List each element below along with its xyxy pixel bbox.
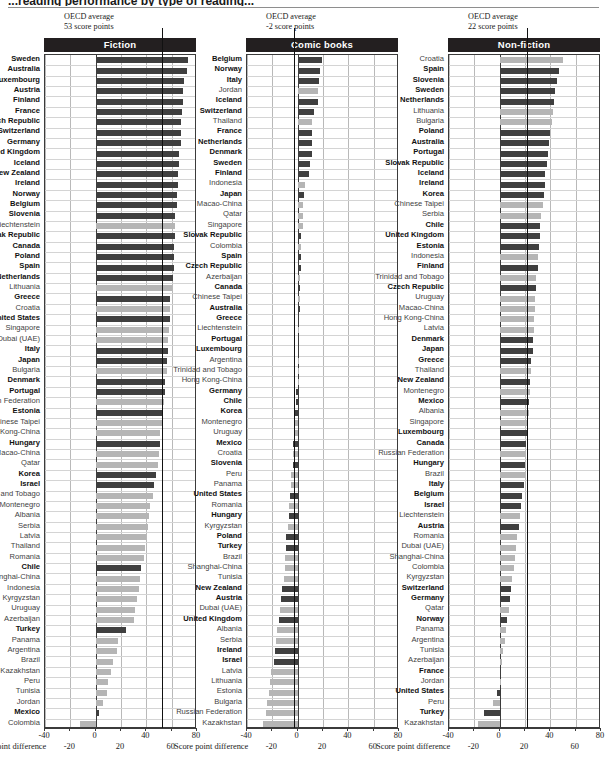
- bar: [500, 327, 534, 333]
- oecd-average-value: 53 score points: [64, 22, 194, 32]
- country-label: Uruguay: [0, 604, 40, 612]
- bar: [497, 690, 500, 696]
- country-label: Indonesia: [52, 179, 242, 187]
- country-label: Argentina: [254, 636, 444, 644]
- bar: [493, 700, 499, 706]
- country-label: Qatar: [0, 459, 40, 467]
- country-label: Poland: [254, 127, 444, 135]
- gridline-horizontal: [449, 138, 599, 139]
- country-label: Romania: [52, 501, 242, 509]
- gridline-horizontal: [449, 408, 599, 409]
- country-label: Russian Federation: [0, 397, 40, 405]
- axis-tick-label: 0: [282, 731, 312, 740]
- country-label: Chinese Taipei: [52, 293, 242, 301]
- bar: [500, 586, 511, 592]
- panel-title-comic-books: Comic books: [246, 38, 398, 52]
- country-label-list-fiction: SwedenAustraliaLuxembourgAustriaFinlandF…: [4, 54, 42, 728]
- country-label: Ireland: [0, 179, 40, 187]
- country-label: Hong Kong-China: [52, 376, 242, 384]
- gridline-horizontal: [449, 211, 599, 212]
- bar: [500, 482, 524, 488]
- country-label: Finland: [0, 96, 40, 104]
- country-label: Sweden: [52, 159, 242, 167]
- bar: [500, 296, 535, 302]
- country-label: Chinese Taipei: [0, 418, 40, 426]
- plot-area-non-fiction: [448, 54, 600, 728]
- gridline-horizontal: [449, 418, 599, 419]
- country-label: Belgium: [52, 55, 242, 63]
- country-label: United States: [254, 687, 444, 695]
- country-label: Lithuania: [254, 107, 444, 115]
- gridline-horizontal: [449, 356, 599, 357]
- axis-tick-label: -20: [54, 742, 84, 751]
- country-label: Denmark: [52, 148, 242, 156]
- bar: [500, 265, 538, 271]
- gridline-horizontal: [449, 470, 599, 471]
- bar: [500, 306, 535, 312]
- country-label: Greece: [254, 356, 444, 364]
- country-label: Slovenia: [52, 459, 242, 467]
- country-label: United Kingdom: [52, 615, 242, 623]
- country-label: Greece: [52, 314, 242, 322]
- country-label: Jordan: [254, 677, 444, 685]
- country-label: Panama: [0, 636, 40, 644]
- country-label: Estonia: [52, 687, 242, 695]
- country-label: Hungary: [0, 439, 40, 447]
- country-label: Thailand: [254, 366, 444, 374]
- country-label: Dubai (UAE): [52, 604, 242, 612]
- gridline-horizontal: [449, 231, 599, 232]
- country-label: Chile: [254, 221, 444, 229]
- gridline-horizontal: [449, 542, 599, 543]
- country-label: Israel: [0, 480, 40, 488]
- bar: [500, 182, 546, 188]
- country-label: France: [52, 127, 242, 135]
- country-label: Czech Republic: [0, 117, 40, 125]
- gridline-horizontal: [449, 625, 599, 626]
- bar: [500, 57, 563, 63]
- country-label: Peru: [0, 677, 40, 685]
- country-label: Argentina: [52, 356, 242, 364]
- country-label: Peru: [254, 698, 444, 706]
- gridline-horizontal: [449, 314, 599, 315]
- country-label: Hungary: [254, 459, 444, 467]
- gridline-horizontal: [449, 387, 599, 388]
- bar: [500, 399, 529, 405]
- bar: [500, 244, 539, 250]
- country-label: Hong Kong-China: [254, 314, 444, 322]
- gridline-horizontal: [449, 65, 599, 66]
- country-label: Turkey: [52, 542, 242, 550]
- bar: [500, 576, 513, 582]
- oecd-average-line: [527, 28, 528, 728]
- bar: [500, 389, 530, 395]
- gridline-horizontal: [449, 522, 599, 523]
- axis-tick-label: 40: [130, 731, 160, 740]
- axis-tick: [120, 728, 121, 731]
- country-label: Romania: [254, 532, 444, 540]
- country-label: Poland: [0, 252, 40, 260]
- country-label: Denmark: [0, 376, 40, 384]
- country-label: Macao-China: [0, 449, 40, 457]
- country-label: Montenegro: [254, 387, 444, 395]
- bar: [500, 316, 534, 322]
- bar: [500, 545, 516, 551]
- country-label: Singapore: [0, 324, 40, 332]
- country-label: Israel: [254, 501, 444, 509]
- country-label: Kazakhstan: [52, 719, 242, 727]
- gridline-horizontal: [449, 501, 599, 502]
- country-label: Australia: [0, 65, 40, 73]
- bar: [500, 254, 538, 260]
- country-label: Dubai (UAE): [254, 542, 444, 550]
- bar: [478, 721, 500, 727]
- country-label: Greece: [0, 293, 40, 301]
- country-label: Chile: [52, 397, 242, 405]
- country-label: Macao-China: [254, 304, 444, 312]
- axis-tick: [575, 728, 576, 731]
- gridline-horizontal: [449, 273, 599, 274]
- axis-tick-label: 20: [307, 742, 337, 751]
- country-label: Serbia: [52, 636, 242, 644]
- country-label: Austria: [0, 86, 40, 94]
- country-label: Japan: [0, 356, 40, 364]
- country-label: Latvia: [254, 324, 444, 332]
- gridline-horizontal: [449, 107, 599, 108]
- country-label: Slovenia: [254, 76, 444, 84]
